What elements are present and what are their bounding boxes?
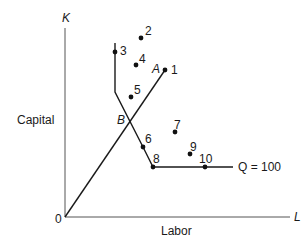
point-5 xyxy=(129,95,134,100)
point-label-1: 1 xyxy=(171,64,178,76)
point-label-3: 3 xyxy=(120,45,127,57)
point-label-7: 7 xyxy=(174,119,181,131)
point-4 xyxy=(134,63,139,68)
point-3 xyxy=(113,50,118,55)
point-label-4: 4 xyxy=(139,53,146,65)
label-A: A xyxy=(152,63,160,75)
isoquant-curve xyxy=(115,43,233,167)
point-1 xyxy=(163,68,168,73)
point-label-5: 5 xyxy=(134,84,141,96)
x-axis-symbol: L xyxy=(294,211,301,223)
isoquant-label: Q = 100 xyxy=(238,161,281,173)
point-label-9: 9 xyxy=(190,141,197,153)
point-label-8: 8 xyxy=(153,153,160,165)
x-axis-label: Labor xyxy=(161,225,192,237)
label-B: B xyxy=(117,114,125,126)
y-axis-label: Capital xyxy=(17,114,54,126)
point-label-6: 6 xyxy=(145,133,152,145)
y-axis-symbol: K xyxy=(62,12,70,24)
point-label-2: 2 xyxy=(145,25,152,37)
origin-label: 0 xyxy=(55,213,62,225)
isoquant-diagram: K Capital L Labor 0 A B 1 2 3 4 5 6 7 8 … xyxy=(0,0,308,250)
point-2 xyxy=(139,36,144,41)
point-label-10: 10 xyxy=(199,153,212,165)
